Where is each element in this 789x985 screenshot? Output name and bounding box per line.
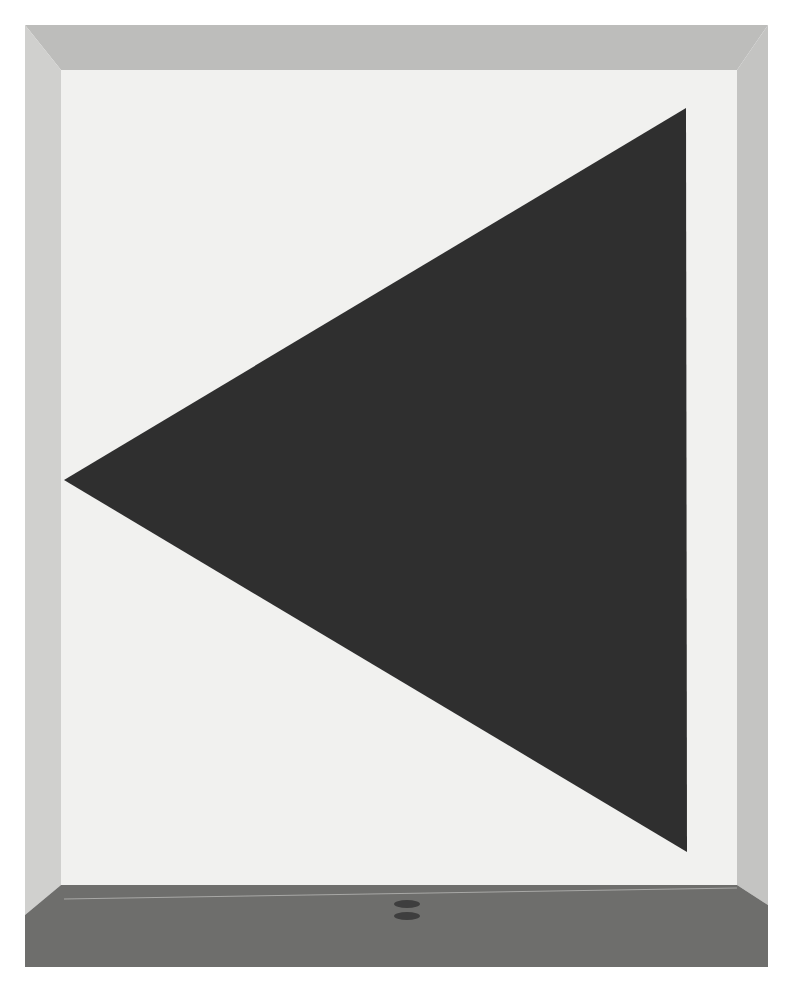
floor-drain [394,912,420,920]
gallery-photo [0,0,789,985]
scene-canvas [0,0,789,985]
ceiling [25,25,768,70]
floor-drain [394,900,420,908]
right-wall [737,25,768,905]
floor [25,885,768,967]
left-wall [25,25,61,915]
